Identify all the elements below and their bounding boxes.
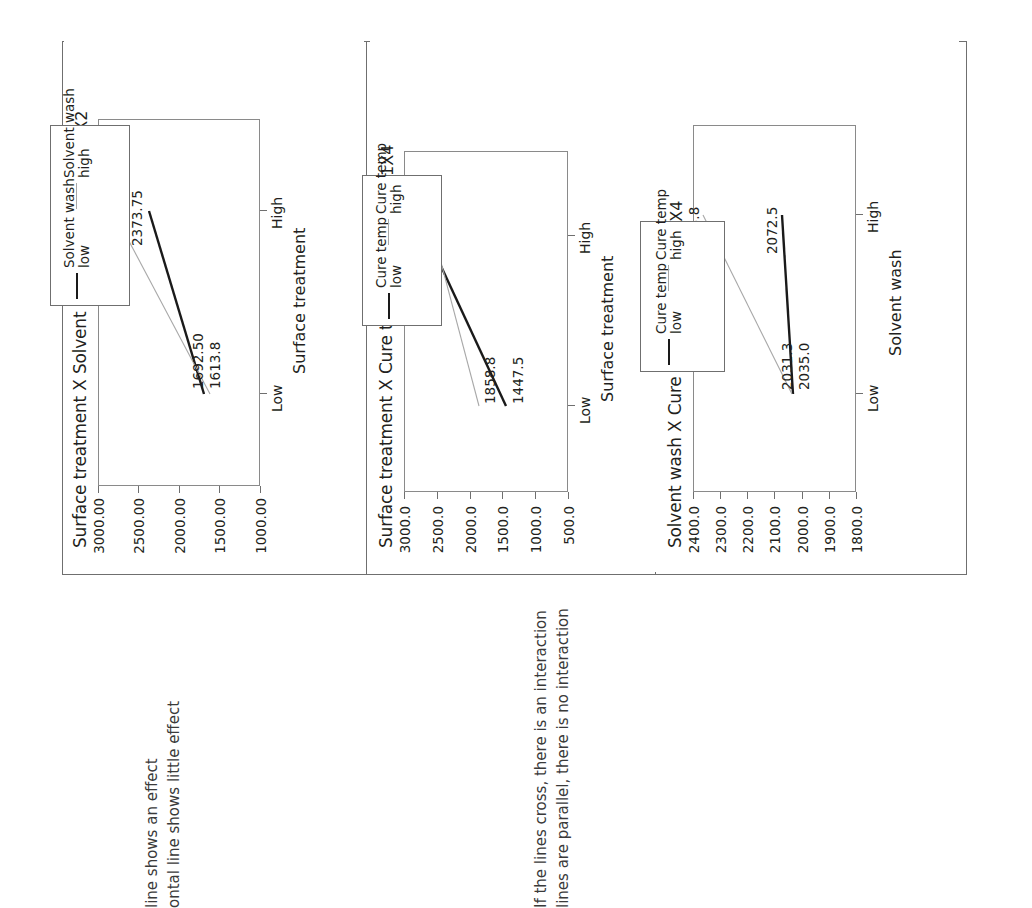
chart-inner-1x2: Surface treatment X Solvent wash 1X2 300… — [64, 38, 364, 572]
legend-swatch-light-icon — [388, 219, 389, 245]
data-label-low-dark: 2031.3 — [779, 343, 795, 390]
legend-label-0-line2: low — [76, 245, 92, 268]
chart-panel-1x2: Surface treatment X Solvent wash 1X2 300… — [64, 38, 364, 572]
chart-panel-1x4: Surface treatment X Cure temp 1X4 3000.0… — [370, 38, 670, 572]
note-2-line-2: lines are parallel, there is no interact… — [554, 608, 572, 908]
legend-label-0-line2: low — [668, 311, 684, 334]
data-label-low-dark: 1447.5 — [510, 357, 526, 404]
data-label-low-light: 1858.8 — [482, 357, 498, 404]
legend-label-1-line1: Cure temp — [653, 189, 669, 260]
legend-label-1-line1: Cure temp — [373, 143, 389, 214]
note-2-line-1: If the lines cross, there is an interact… — [532, 610, 550, 908]
legend-swatch-light-icon — [76, 183, 77, 209]
legend-label-1: Solvent wash high — [62, 88, 92, 178]
legend-label-1-line2: high — [668, 231, 684, 260]
data-label-low-light: 2035.0 — [796, 343, 812, 390]
legend-swatch-dark-icon — [388, 293, 390, 319]
legend-label-1: Cure temp high — [654, 189, 684, 260]
data-label-high-dark: 2072.5 — [764, 207, 780, 254]
legend-label-1-line1: Solvent wash — [61, 88, 77, 178]
data-label-low-dark: 1692.50 — [190, 333, 206, 389]
legend-item-1[interactable]: Solvent wash high — [62, 88, 92, 209]
legend-label-1-line2: high — [388, 185, 404, 214]
chart-inner-1x4: Surface treatment X Cure temp 1X4 3000.0… — [370, 38, 670, 572]
data-label-high-dark: 2373.75 — [129, 190, 145, 246]
legend-label-1: Cure temp high — [374, 143, 404, 214]
legend-swatch-dark-icon — [76, 273, 78, 299]
legend-swatch-light-icon — [668, 265, 669, 291]
legend-label-1-line2: high — [76, 149, 92, 178]
data-label-low-light: 1613.8 — [207, 342, 223, 389]
legend-label-0-line2: low — [388, 265, 404, 288]
legend-item-1[interactable]: Cure temp high — [374, 143, 404, 245]
chart-inner-2x4: Solvent wash X Cure temp 2X4 2400.0 2300… — [659, 38, 959, 572]
legend-box-1x2: Solvent wash low Solvent wash high — [50, 125, 130, 306]
note-1-line-1: line shows an effect — [143, 758, 161, 908]
legend-swatch-dark-icon — [668, 339, 670, 365]
legend-box-2x4: Cure temp low Cure temp high — [640, 221, 725, 372]
legend-item-1[interactable]: Cure temp high — [654, 189, 684, 291]
chart-panel-2x4: Solvent wash X Cure temp 2X4 2400.0 2300… — [659, 38, 959, 572]
note-1-line-2: ontal line shows little effect — [165, 701, 183, 908]
legend-box-1x4: Cure temp low Cure temp high — [362, 175, 442, 326]
